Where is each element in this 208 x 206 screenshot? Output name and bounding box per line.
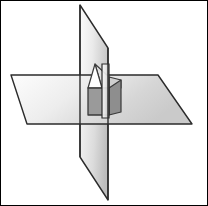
figure-container	[0, 0, 208, 206]
intersecting-planes-figure	[0, 0, 208, 206]
